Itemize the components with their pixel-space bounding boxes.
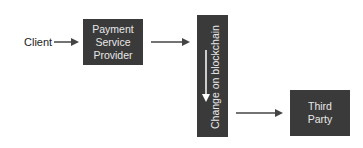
arrows-layer <box>0 0 363 148</box>
arrow-blockchain-to-third-party <box>236 109 283 117</box>
diagram-canvas: Client Payment Service Provider Change o… <box>0 0 363 148</box>
arrow-down-inside-blockchain <box>202 50 210 102</box>
arrow-client-to-psp <box>54 38 79 46</box>
arrow-psp-to-blockchain <box>151 38 190 46</box>
